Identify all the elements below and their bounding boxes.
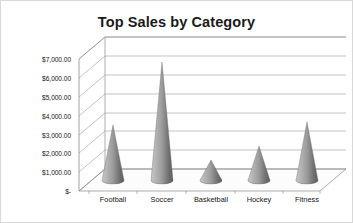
- y-tick-6000: $6,000.00: [11, 75, 71, 82]
- y-tick-7000: $7,000.00: [11, 56, 71, 63]
- y-tick-1000: $1,000.00: [11, 169, 71, 176]
- y-tick-0: $-: [11, 188, 71, 195]
- y-tick-3000: $3,000.00: [11, 132, 71, 139]
- x-axis-labels: Football Soccer Basketball Hockey Fitnes…: [1, 195, 353, 211]
- x-tick-soccer: Soccer: [150, 195, 173, 204]
- x-tick-fitness: Fitness: [295, 195, 319, 204]
- x-tick-basketball: Basketball: [194, 195, 228, 204]
- y-tick-4000: $4,000.00: [11, 113, 71, 120]
- y-tick-2000: $2,000.00: [11, 150, 71, 157]
- y-axis-labels: $7,000.00 $6,000.00 $5,000.00 $4,000.00 …: [9, 1, 71, 223]
- x-axis-ticks: [89, 191, 320, 194]
- y-tick-5000: $5,000.00: [11, 94, 71, 101]
- left-wall: [79, 37, 105, 191]
- chart-frame: Top Sales by Category: [0, 0, 353, 223]
- x-tick-football: Football: [100, 195, 126, 204]
- x-tick-hockey: Hockey: [247, 195, 272, 204]
